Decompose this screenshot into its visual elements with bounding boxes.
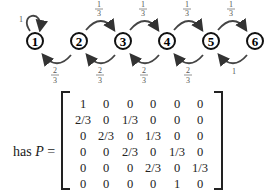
node-1: 1	[27, 33, 43, 49]
matrix-symbol: P	[35, 144, 44, 159]
svg-text:2: 2	[98, 66, 102, 75]
svg-text:1: 1	[185, 0, 189, 9]
svg-text:1: 1	[141, 0, 145, 9]
svg-text:6: 6	[252, 34, 259, 49]
svg-text:3: 3	[229, 9, 233, 18]
svg-text:4: 4	[164, 34, 171, 49]
equals-sign: =	[44, 144, 55, 159]
svg-text:3: 3	[186, 76, 190, 85]
node-4: 4	[159, 33, 175, 49]
svg-text:3: 3	[141, 9, 145, 18]
svg-text:1: 1	[97, 0, 101, 9]
svg-text:3: 3	[120, 34, 127, 49]
node-6: 6	[247, 33, 263, 49]
svg-text:3: 3	[53, 76, 57, 85]
self-loop-arrow	[27, 16, 41, 31]
svg-text:2: 2	[142, 66, 146, 75]
forward-edge-labels: 1 3 1 3 1 3 1 3	[95, 0, 235, 18]
self-loop-label: 1	[19, 15, 23, 24]
backward-edges	[43, 55, 247, 63]
svg-text:3: 3	[185, 9, 189, 18]
node-3: 3	[115, 33, 131, 49]
svg-text:3: 3	[142, 76, 146, 85]
svg-text:2: 2	[76, 34, 83, 49]
svg-text:5: 5	[208, 34, 215, 49]
svg-text:3: 3	[98, 76, 102, 85]
matrix-cell: 0	[185, 129, 215, 143]
matrix-cell: 0	[185, 177, 215, 191]
matrix-cell: 1/3	[185, 161, 215, 175]
matrix-cell: 0	[185, 97, 215, 111]
node-5: 5	[203, 33, 219, 49]
markov-chain-diagram: 1 1 3 1 3 1 3 1 3 2 3 2 3 2	[0, 0, 275, 92]
svg-text:1: 1	[232, 67, 236, 76]
svg-text:2: 2	[53, 66, 57, 75]
matrix-cell: 0	[185, 145, 215, 159]
svg-text:3: 3	[97, 9, 101, 18]
right-bracket	[214, 91, 223, 190]
svg-text:2: 2	[186, 66, 190, 75]
lhs-prefix: has	[13, 144, 35, 159]
forward-edges	[86, 21, 246, 30]
matrix-lhs: has P =	[13, 144, 55, 160]
backward-edge-labels: 2 3 2 3 2 3 2 3 1	[51, 66, 236, 85]
node-2: 2	[71, 33, 87, 49]
svg-text:1: 1	[229, 0, 233, 9]
matrix-cell: 0	[185, 113, 215, 127]
svg-text:1: 1	[32, 34, 39, 49]
